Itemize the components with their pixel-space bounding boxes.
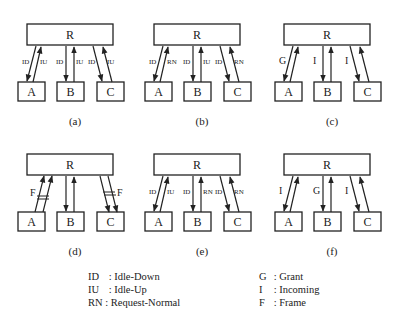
frame-arrow-up — [35, 176, 44, 212]
link-arrow-down — [350, 46, 359, 81]
legend-item: ID : Idle-Down — [88, 270, 180, 283]
link-label-down: ID — [183, 58, 190, 66]
node-label: A — [284, 215, 293, 229]
link-label-down: G — [313, 185, 320, 196]
link-label-down: G — [279, 55, 286, 66]
link-label-down: ID — [22, 58, 29, 66]
link-label-up: RN — [203, 188, 213, 196]
node-label: A — [27, 85, 36, 99]
panel-a: RABCIDIUIDIUIDIU(a) — [18, 24, 124, 128]
node-label: A — [284, 85, 293, 99]
link-label-down: ID — [149, 58, 156, 66]
node-label: C — [363, 215, 371, 229]
link-label-down: ID — [215, 58, 222, 66]
link-label-up: IU — [167, 188, 174, 196]
link-label-down: ID — [88, 58, 95, 66]
router-label: R — [323, 28, 331, 42]
link-label-down: I — [313, 55, 316, 66]
legend-item: G : Grant — [259, 270, 319, 283]
node-label: C — [233, 215, 241, 229]
link-label-down: I — [345, 185, 348, 196]
link-label-down: I — [345, 55, 348, 66]
node-label: A — [27, 215, 36, 229]
router-label: R — [193, 158, 201, 172]
node-label: B — [323, 85, 331, 99]
link-arrow-up — [360, 47, 369, 82]
panel-caption: (a) — [69, 115, 82, 128]
node-label: A — [154, 215, 163, 229]
legend-right: G : Grant I : Incoming F : Frame — [259, 270, 319, 309]
link-arrow-down — [350, 176, 359, 211]
panel-c: RABCGII(c) — [275, 24, 381, 128]
panel-caption: (f) — [327, 245, 338, 258]
router-label: R — [193, 28, 201, 42]
ring-protocol-diagram: RABCIDIUIDIUIDIU(a)RABCIDRNIDIUIDRN(b)RA… — [0, 0, 398, 330]
panel-caption: (b) — [196, 115, 209, 128]
legend-item: I : Incoming — [259, 283, 319, 296]
panel-caption: (c) — [326, 115, 339, 128]
link-label-up: RN — [234, 188, 244, 196]
link-label-up: F — [117, 187, 123, 198]
legend-item: F : Frame — [259, 296, 319, 309]
link-label-up: RN — [234, 58, 244, 66]
node-label: B — [66, 85, 74, 99]
link-label-down: ID — [149, 188, 156, 196]
node-label: A — [154, 85, 163, 99]
router-label: R — [66, 28, 74, 42]
frame-arrow-down — [108, 176, 117, 212]
link-label-up: F — [30, 187, 36, 198]
link-label-down: ID — [183, 188, 190, 196]
link-label-up: IU — [40, 58, 47, 66]
panel-e: RABCIDIUIDRNIDRN(e) — [145, 154, 251, 258]
frame-arrow-down — [100, 176, 109, 212]
link-arrow-up — [360, 177, 369, 212]
link-label-down: ID — [56, 58, 63, 66]
panel-b: RABCIDRNIDIUIDRN(b) — [145, 24, 251, 128]
link-label-up: IU — [107, 58, 114, 66]
link-label-down: ID — [215, 188, 222, 196]
node-label: B — [193, 215, 201, 229]
node-label: C — [233, 85, 241, 99]
panel-caption: (d) — [69, 245, 82, 258]
link-label-up: IU — [76, 58, 83, 66]
link-label-down: I — [279, 185, 282, 196]
panel-d: RABCFF(d) — [18, 154, 124, 258]
node-label: C — [106, 215, 114, 229]
legend-item: IU : Idle-Up — [88, 283, 180, 296]
node-label: B — [193, 85, 201, 99]
frame-arrow-up — [43, 176, 52, 212]
panel-caption: (e) — [196, 245, 209, 258]
router-label: R — [323, 158, 331, 172]
router-label: R — [66, 158, 74, 172]
legend-item: RN : Request-Normal — [88, 296, 180, 309]
node-label: C — [106, 85, 114, 99]
link-label-up: RN — [167, 58, 177, 66]
node-label: C — [363, 85, 371, 99]
node-label: B — [323, 215, 331, 229]
panel-f: RABCIGI(f) — [275, 154, 381, 258]
node-label: B — [66, 215, 74, 229]
legend-left: ID : Idle-Down IU : Idle-Up RN : Request… — [88, 270, 180, 309]
link-label-up: IU — [203, 58, 210, 66]
